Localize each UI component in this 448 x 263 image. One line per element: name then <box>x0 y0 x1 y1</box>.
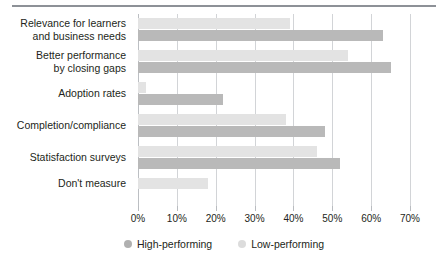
bar-high-performing <box>138 94 223 105</box>
value-axis: 0%10%20%30%40%50%60%70% <box>138 206 410 230</box>
axis-tick <box>177 206 178 211</box>
legend-item[interactable]: High-performing <box>124 238 212 250</box>
bar-high-performing <box>138 30 383 41</box>
legend-item[interactable]: Low-performing <box>238 238 324 250</box>
gridline-60 <box>371 14 372 206</box>
plot-area: Relevance for learners and business need… <box>0 14 448 206</box>
axis-tick-label: 40% <box>283 213 303 225</box>
bar-low-performing <box>138 18 290 29</box>
axis-tick <box>255 206 256 211</box>
axis-tick-label: 30% <box>245 213 265 225</box>
axis-tick-label: 10% <box>167 213 187 225</box>
gridline-50 <box>332 14 333 206</box>
gridline-40 <box>293 14 294 206</box>
category-label: Adoption rates <box>58 87 126 100</box>
bar-high-performing <box>138 158 340 169</box>
category-label: Better performance by closing gaps <box>36 49 126 74</box>
legend-swatch-icon <box>124 240 132 248</box>
top-divider <box>12 5 436 7</box>
chart-legend: High-performingLow-performing <box>0 238 448 250</box>
legend-label: High-performing <box>137 238 212 250</box>
bar-low-performing <box>138 50 348 61</box>
bar-low-performing <box>138 146 317 157</box>
category-label: Completion/compliance <box>17 119 126 132</box>
axis-tick-label: 20% <box>206 213 226 225</box>
axis-tick <box>410 206 411 211</box>
axis-tick <box>371 206 372 211</box>
bars-area <box>138 14 410 206</box>
bar-low-performing <box>138 114 286 125</box>
axis-tick-label: 60% <box>361 213 381 225</box>
axis-tick <box>293 206 294 211</box>
category-label: Relevance for learners and business need… <box>20 17 126 42</box>
bar-low-performing <box>138 178 208 189</box>
axis-tick <box>216 206 217 211</box>
bar-low-performing <box>138 82 146 93</box>
bar-high-performing <box>138 62 391 73</box>
axis-tick <box>138 206 139 211</box>
category-axis-labels: Relevance for learners and business need… <box>0 14 132 206</box>
axis-tick-label: 70% <box>400 213 420 225</box>
bar-high-performing <box>138 126 325 137</box>
axis-tick <box>332 206 333 211</box>
legend-swatch-icon <box>238 240 246 248</box>
chart-figure: Relevance for learners and business need… <box>0 0 448 263</box>
gridline-30 <box>255 14 256 206</box>
axis-tick-label: 50% <box>322 213 342 225</box>
category-label: Don't measure <box>58 177 126 190</box>
gridline-20 <box>216 14 217 206</box>
axis-tick-label: 0% <box>131 213 145 225</box>
category-label: Statisfaction surveys <box>30 151 126 164</box>
legend-label: Low-performing <box>251 238 324 250</box>
gridline-70 <box>410 14 411 206</box>
